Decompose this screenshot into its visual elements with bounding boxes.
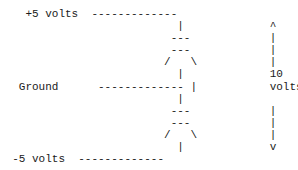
row-wire-4-arrow-down: | v: [0, 141, 298, 153]
row-cell-1-plate-a: --- |: [0, 32, 298, 44]
row-top-rail: +5 volts -------------: [0, 8, 298, 20]
row-cell-1-plate-b: --- |: [0, 44, 298, 56]
row-cell-2-plate-b: --- |: [0, 117, 298, 129]
row-cell-2-legs: / \ |: [0, 129, 298, 141]
row-cell-1-legs: / \ |: [0, 56, 298, 68]
row-cell-2-plate-a: --- |: [0, 105, 298, 117]
row-wire-2-span-value: | 10: [0, 68, 298, 80]
voltage-diagram: +5 volts ------------- | ^ --- | --- | /…: [0, 8, 298, 165]
row-wire-3: |: [0, 93, 298, 105]
row-ground-rail: Ground ------------- | volts: [0, 81, 298, 93]
row-bottom-rail: -5 volts -------------: [0, 153, 298, 165]
row-wire-1: | ^: [0, 20, 298, 32]
